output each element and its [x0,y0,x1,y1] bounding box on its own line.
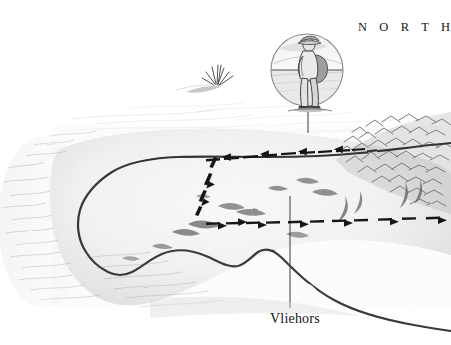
illustration-canvas: N O R T H Vliehors [0,0,451,345]
map-artwork [0,0,451,345]
vliehors-place-label: Vliehors [270,311,320,327]
beach-grass-tuft [202,65,233,85]
hiker-vignette [271,34,343,133]
north-label: N O R T H [358,20,451,35]
